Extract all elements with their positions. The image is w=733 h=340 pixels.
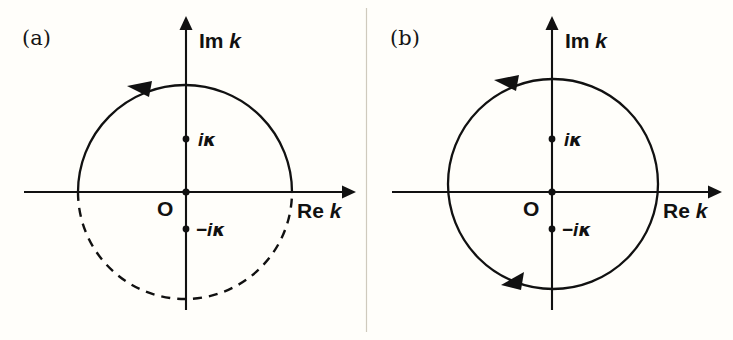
lower-pole-kappa: κ (212, 219, 225, 240)
panel-b-contour-direction-arrow-lower-icon (501, 272, 524, 290)
panel-a-origin-dot (182, 188, 189, 195)
panel-b-real-axis (392, 186, 722, 199)
panel-a: (a) Im k Re k (22, 16, 356, 310)
panel-a-real-axis-label: Re k (297, 199, 343, 222)
im-prefix: Im (565, 29, 590, 52)
panel-a-origin-label: O (157, 197, 173, 220)
panel-b-imaginary-axis-label: Im k (565, 29, 608, 52)
real-axis-arrow-icon (708, 186, 722, 199)
upper-pole-kappa: κ (203, 129, 216, 150)
figure-canvas: (a) Im k Re k (0, 0, 733, 340)
panel-b: (b) Im k Re k (390, 16, 722, 310)
im-prefix: Im (199, 29, 224, 52)
figure-container: (a) Im k Re k (0, 0, 733, 340)
panel-a-upper-pole-dot (183, 136, 190, 143)
panel-b-upper-pole-label: iκ (564, 129, 582, 150)
re-variable: k (696, 199, 709, 222)
imaginary-axis-arrow-icon (546, 16, 559, 30)
panel-b-imaginary-axis (546, 16, 559, 310)
panel-b-lower-pole-label: −iκ (562, 219, 591, 240)
im-variable: k (229, 29, 242, 52)
panel-b-lower-pole-dot (549, 226, 556, 233)
upper-pole-kappa: κ (569, 129, 582, 150)
re-variable: k (330, 199, 343, 222)
re-prefix: Re (297, 199, 324, 222)
panel-b-label: (b) (390, 26, 420, 50)
panel-a-label: (a) (22, 26, 51, 50)
panel-b-origin-dot (548, 188, 555, 195)
panel-a-imaginary-axis (180, 16, 193, 310)
panel-a-real-axis (24, 186, 356, 199)
re-prefix: Re (663, 199, 690, 222)
imaginary-axis-arrow-icon (180, 16, 193, 30)
lower-pole-kappa: κ (578, 219, 591, 240)
real-axis-arrow-icon (342, 186, 356, 199)
panel-b-real-axis-label: Re k (663, 199, 709, 222)
lower-pole-sign: − (196, 219, 207, 240)
panel-a-imaginary-axis-label: Im k (199, 29, 242, 52)
panel-b-origin-label: O (523, 197, 539, 220)
panel-a-upper-pole-label: iκ (198, 129, 216, 150)
panel-b-upper-pole-dot (549, 136, 556, 143)
panel-a-lower-pole-label: −iκ (196, 219, 225, 240)
im-variable: k (595, 29, 608, 52)
panel-a-lower-pole-dot (183, 226, 190, 233)
lower-pole-sign: − (562, 219, 573, 240)
